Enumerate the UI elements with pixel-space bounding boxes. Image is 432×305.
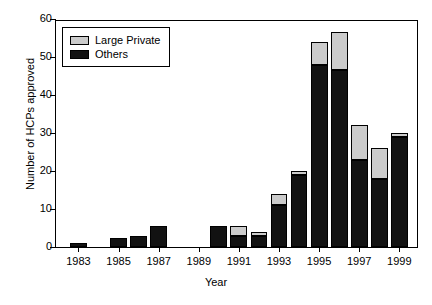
- y-tick-label: 30: [40, 126, 52, 139]
- legend-swatch-others: [70, 50, 89, 59]
- y-tick-label: 10: [40, 202, 52, 215]
- bar-segment-others: [311, 65, 328, 247]
- legend-item: Others: [70, 47, 160, 61]
- y-tick-label: 40: [40, 88, 52, 101]
- bar-1985: [110, 238, 127, 248]
- y-tick-label: 50: [40, 50, 52, 63]
- y-tick-label: 20: [40, 164, 52, 177]
- chart-figure: Number of HCPs approved Year 01020304050…: [0, 0, 432, 305]
- x-tick-mark: [78, 247, 79, 252]
- legend-label: Others: [95, 48, 128, 61]
- bar-segment-large-private: [371, 148, 388, 178]
- x-tick-mark: [399, 247, 400, 252]
- bar-segment-large-private: [271, 194, 288, 205]
- bar-1986: [130, 236, 147, 247]
- x-tick-mark: [199, 247, 200, 252]
- x-tick-label: 1987: [137, 255, 181, 267]
- x-tick-label: 1985: [97, 255, 141, 267]
- x-tick-mark: [159, 247, 160, 252]
- bar-segment-others: [371, 179, 388, 247]
- x-tick-label: 1997: [337, 255, 381, 267]
- bar-segment-others: [230, 236, 247, 247]
- x-tick-mark: [319, 247, 320, 252]
- legend-swatch-large: [70, 36, 89, 45]
- bar-segment-others: [291, 175, 308, 247]
- legend-item: Large Private: [70, 33, 160, 47]
- x-tick-label: 1989: [177, 255, 221, 267]
- bar-segment-large-private: [391, 133, 408, 137]
- bar-segment-others: [391, 137, 408, 247]
- bar-1997: [351, 125, 368, 247]
- bar-segment-others: [351, 160, 368, 247]
- bar-segment-large-private: [230, 226, 247, 236]
- x-tick-label: 1993: [257, 255, 301, 267]
- x-tick-mark: [119, 247, 120, 252]
- bar-segment-others: [130, 236, 147, 247]
- bar-1994: [291, 171, 308, 247]
- bar-segment-others: [70, 243, 87, 247]
- x-tick-mark: [359, 247, 360, 252]
- bar-segment-others: [251, 236, 268, 247]
- x-tick-mark: [239, 247, 240, 252]
- bar-1983: [70, 243, 87, 247]
- x-tick-label: 1991: [217, 255, 261, 267]
- y-tick-label: 60: [40, 12, 52, 25]
- y-tick-label: 0: [46, 240, 52, 253]
- bar-segment-large-private: [311, 42, 328, 65]
- bar-segment-others: [150, 226, 167, 247]
- bar-segment-large-private: [331, 32, 348, 70]
- bar-1998: [371, 148, 388, 247]
- bar-1999: [391, 133, 408, 247]
- chart-legend: Large PrivateOthers: [62, 27, 170, 67]
- bar-1987: [150, 226, 167, 247]
- x-tick-label: 1995: [297, 255, 341, 267]
- legend-label: Large Private: [95, 34, 160, 47]
- x-tick-label: 1983: [56, 255, 100, 267]
- y-axis-title: Number of HCPs approved: [24, 24, 36, 224]
- bar-segment-large-private: [251, 232, 268, 236]
- bar-1991: [230, 226, 247, 247]
- bar-1995: [311, 42, 328, 247]
- x-tick-mark: [279, 247, 280, 252]
- bar-1990: [210, 226, 227, 247]
- bar-segment-others: [271, 205, 288, 247]
- x-axis-title: Year: [0, 276, 432, 288]
- bar-segment-large-private: [291, 171, 308, 175]
- bar-segment-others: [210, 226, 227, 247]
- bar-1992: [251, 232, 268, 247]
- bar-segment-large-private: [351, 125, 368, 159]
- bar-1993: [271, 194, 288, 247]
- bar-segment-others: [331, 70, 348, 247]
- bar-1996: [331, 32, 348, 247]
- bar-segment-others: [110, 238, 127, 248]
- x-tick-label: 1999: [377, 255, 421, 267]
